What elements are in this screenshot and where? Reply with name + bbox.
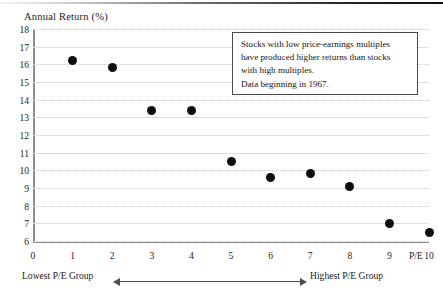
gridline	[33, 117, 429, 118]
x-axis-tick-label: 7	[308, 250, 313, 261]
annotation-line-4: Data beginning in 1967.	[241, 78, 410, 91]
y-axis-tick-label: 10	[19, 165, 29, 176]
x-axis-tick-label: 9	[387, 250, 392, 261]
arrow-shaft	[118, 281, 302, 282]
pe-direction-arrow	[113, 277, 307, 286]
y-axis-tick-label: 15	[19, 77, 29, 88]
x-axis-label: P/E	[409, 250, 423, 261]
y-axis-tick-label: 13	[19, 112, 29, 123]
gridline	[33, 100, 429, 101]
y-axis-tick-label: 16	[19, 59, 29, 70]
y-axis-tick-label: 18	[19, 24, 29, 35]
top-rule-divider	[0, 2, 443, 4]
data-point	[266, 173, 275, 182]
y-axis-title: Annual Return (%)	[24, 11, 108, 22]
data-point	[187, 106, 196, 115]
x-axis-line	[33, 242, 429, 243]
data-point	[345, 182, 354, 191]
pe-annual-return-scatter-chart: Annual Return (%) 1817161514131211109876…	[0, 0, 443, 303]
data-point	[147, 106, 156, 115]
x-axis-tick-label: 0	[31, 250, 36, 261]
y-axis-tick-label: 8	[24, 200, 29, 211]
data-point	[385, 219, 394, 228]
gridline	[33, 135, 429, 136]
y-axis-tick-label: 7	[24, 218, 29, 229]
x-axis-tick-label: 8	[347, 250, 352, 261]
x-axis-tick-label: 4	[189, 250, 194, 261]
annotation-line-3: with high multiples.	[241, 64, 410, 77]
data-point	[425, 228, 434, 237]
y-axis-tick-label: 6	[24, 236, 29, 247]
gridline	[33, 170, 429, 171]
gridline	[33, 188, 429, 189]
y-axis-tick-label: 17	[19, 41, 29, 52]
annotation-textbox: Stocks with low price-earnings multiples…	[232, 32, 418, 95]
data-point	[306, 169, 315, 178]
data-point	[108, 63, 117, 72]
gridline	[33, 241, 429, 242]
gridline	[33, 206, 429, 207]
annotation-line-2: have produced higher returns than stocks	[241, 51, 410, 64]
y-axis-tick-label: 12	[19, 130, 29, 141]
x-axis-tick-label: 5	[229, 250, 234, 261]
annotation-line-1: Stocks with low price-earnings multiples	[241, 38, 410, 51]
arrow-right-head-icon	[300, 278, 307, 286]
x-axis-tick-label: 1	[70, 250, 75, 261]
y-axis-tick-label: 9	[24, 183, 29, 194]
y-axis-tick-label: 11	[20, 147, 29, 158]
gridline	[33, 223, 429, 224]
gridline	[33, 153, 429, 154]
x-axis-tick-label: 2	[110, 250, 115, 261]
y-axis-tick-label: 14	[19, 94, 29, 105]
x-axis-tick-label: 3	[149, 250, 154, 261]
x-axis-tick-label: 10	[424, 250, 434, 261]
lowest-pe-group-label: Lowest P/E Group	[22, 270, 93, 281]
data-point	[227, 157, 236, 166]
x-axis-tick-label: 6	[268, 250, 273, 261]
highest-pe-group-label: Highest P/E Group	[310, 270, 383, 281]
gridline	[33, 29, 429, 30]
